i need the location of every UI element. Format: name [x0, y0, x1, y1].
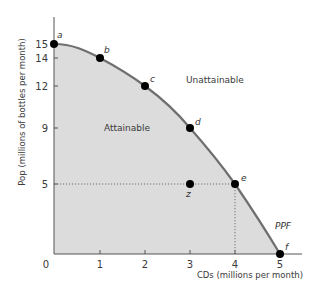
- y-tick-label-12: 12: [35, 81, 48, 92]
- x-axis-title: CDs (millions per month): [197, 270, 303, 280]
- point-label-b: b: [104, 45, 110, 55]
- point-label-z: z: [185, 189, 191, 199]
- point-label-f: f: [285, 242, 290, 252]
- ppf-label: PPF: [275, 221, 292, 231]
- unattainable-label: Unattainable: [186, 75, 244, 85]
- attainable-label: Attainable: [104, 123, 151, 133]
- x-tick-label-4: 4: [232, 259, 238, 270]
- point-label-c: c: [150, 74, 155, 84]
- y-tick-label-9: 9: [42, 123, 48, 134]
- point-z: [186, 180, 194, 188]
- x-tick-label-2: 2: [142, 259, 148, 270]
- point-label-d: d: [195, 117, 201, 127]
- x-tick-label-1: 1: [97, 259, 103, 270]
- y-tick-label-14: 14: [35, 53, 48, 64]
- y-tick-label-5: 5: [42, 179, 48, 190]
- attainable-region: [54, 44, 280, 254]
- x-tick-label-5: 5: [277, 259, 283, 270]
- point-f: [276, 250, 284, 258]
- point-b: [96, 54, 104, 62]
- x-tick-label-3: 3: [187, 259, 193, 270]
- y-tick-label-15: 15: [35, 39, 48, 50]
- point-c: [141, 82, 149, 90]
- point-label-a: a: [57, 30, 63, 40]
- point-label-e: e: [241, 173, 247, 183]
- point-e: [231, 180, 239, 188]
- point-a: [50, 40, 58, 48]
- x-tick-label-0: 0: [43, 259, 49, 270]
- point-d: [186, 124, 194, 132]
- ppf-chart: a b c d e f z Attainable Unattainable PP…: [0, 0, 320, 294]
- y-axis-title: Pop (millions of bottles per month): [17, 38, 27, 185]
